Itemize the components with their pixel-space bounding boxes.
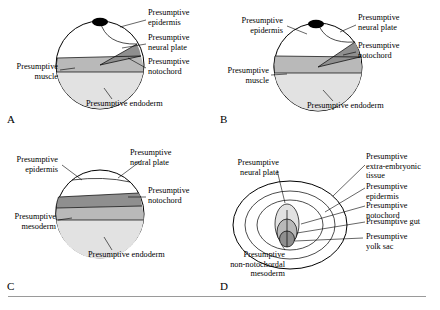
label-d-presumptive-neural-plate: Presumptive neural plate [217,158,279,177]
panel-c: Presumptive epidermis Presumptive neural… [0,140,215,310]
label-c-presumptive-neural-plate: Presumptive neural plate [130,148,196,167]
panel-a-embryo [56,18,144,109]
panel-b: Presumptive epidermis Presumptive neural… [215,0,440,135]
label-b-presumptive-endoderm: Presumptive endoderm [307,101,412,111]
label-a-presumptive-muscle: Presumptive muscle [0,62,58,81]
label-d-presumptive-non-notochordal-mesoderm: Presumptive non-notochordal mesoderm [215,250,285,279]
label-d-presumptive-yolk-sac: Presumptive yolk sac [366,232,436,251]
panel-d: Presumptive neural plate Presumptive ext… [215,140,440,310]
label-d-presumptive-extra-embryonic-tissue: Presumptive extra-embryonic tissue [366,152,440,181]
panel-c-embryo [56,170,144,259]
panel-letter-a: A [7,113,15,125]
label-c-presumptive-mesoderm: Presumptive mesoderm [0,212,56,231]
label-c-presumptive-epidermis: Presumptive epidermis [0,155,58,174]
panel-a: Presumptive epidermis Presumptive neural… [0,0,215,135]
label-a-presumptive-endoderm: Presumptive endoderm [86,99,186,109]
label-a-presumptive-neural-plate: Presumptive neural plate [148,33,212,52]
label-a-presumptive-notochord: Presumptive notochord [148,57,210,76]
bottom-rule [8,296,426,297]
label-d-presumptive-gut: Presumptive gut [366,217,440,227]
label-a-presumptive-epidermis: Presumptive epidermis [148,8,210,27]
label-b-presumptive-neural-plate: Presumptive neural plate [358,13,424,32]
label-b-presumptive-notochord: Presumptive notochord [358,41,420,60]
fate-map-figure: Presumptive epidermis Presumptive neural… [0,0,440,310]
label-b-presumptive-epidermis: Presumptive epidermis [221,16,283,35]
label-b-presumptive-muscle: Presumptive muscle [215,66,269,85]
label-c-presumptive-endoderm: Presumptive endoderm [88,250,196,260]
panel-letter-b: B [220,113,227,125]
panel-b-embryo [274,20,362,111]
label-d-presumptive-epidermis: Presumptive epidermis [366,182,440,201]
label-c-presumptive-notochord: Presumptive notochord [148,186,210,205]
panel-letter-c: C [7,280,14,292]
panel-letter-d: D [220,280,228,292]
